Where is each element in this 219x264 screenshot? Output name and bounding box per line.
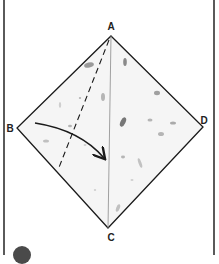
vertex-label-d: D	[200, 116, 207, 126]
step-number-badge	[13, 246, 31, 264]
vertex-label-b: B	[6, 124, 13, 134]
paper-square	[17, 36, 203, 228]
vertex-label-c: C	[107, 233, 114, 243]
vertex-label-a: A	[107, 22, 114, 32]
